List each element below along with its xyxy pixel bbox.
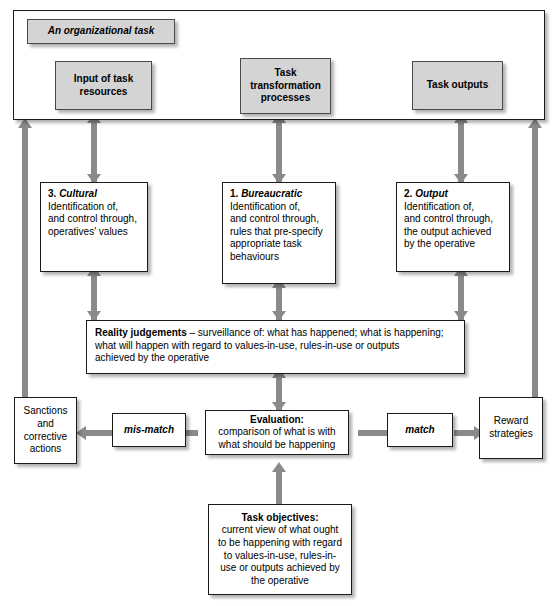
sanctions-line-4: actions	[30, 443, 62, 456]
task-outputs-label: Task outputs	[427, 79, 488, 92]
evaluation-title: Evaluation:	[250, 414, 304, 427]
arrowhead-mismatch-to-sanctions	[76, 426, 86, 440]
task-objectives-line-3: to values-in-use, rules-in-	[224, 550, 336, 563]
reality-judgements-line-1: Reality judgements – surveillance of: wh…	[95, 327, 444, 340]
control-box-cultural-line-1: Identification of,	[48, 201, 118, 214]
control-box-bureaucratic-line-3: rules that pre-specify	[230, 226, 323, 239]
match-box: match	[387, 413, 453, 447]
sanctions-line-3: corrective	[24, 431, 67, 444]
connector-objectives-to-evaluation	[276, 468, 282, 504]
control-box-output-line-4: by the operative	[404, 238, 475, 251]
control-box-output: 2. Output Identification of, and control…	[396, 182, 510, 272]
control-box-output-number: 2.	[404, 188, 412, 199]
input-of-task-resources-label: Input of task resources	[56, 73, 151, 98]
organizational-task-label: An organizational task	[27, 19, 175, 44]
control-box-bureaucratic-line-2: and control through,	[230, 213, 319, 226]
reward-strategies-box: Reward strategies	[479, 397, 543, 459]
control-box-cultural-number: 3.	[48, 188, 56, 199]
control-box-cultural-heading: 3. Cultural	[48, 188, 97, 201]
reality-judgements-title: Reality judgements	[95, 327, 187, 338]
diagram-canvas: An organizational task Input of task res…	[0, 0, 558, 606]
control-box-cultural: 3. Cultural Identification of, and contr…	[40, 182, 148, 272]
reality-judgements-box: Reality judgements – surveillance of: wh…	[86, 320, 465, 374]
control-box-output-line-1: Identification of,	[404, 201, 474, 214]
control-box-output-line-2: and control through,	[404, 213, 493, 226]
task-objectives-line-1: current view of what ought	[222, 524, 339, 537]
control-box-output-line-3: the output achieved	[404, 226, 491, 239]
sanctions-line-1: Sanctions	[24, 405, 68, 418]
connector-reward-to-frame	[532, 126, 538, 404]
control-box-cultural-line-3: operatives' values	[48, 226, 128, 239]
match-label: match	[405, 424, 434, 437]
connector-evaluation-to-match	[358, 430, 390, 436]
evaluation-line-2: what should be happening	[219, 439, 336, 452]
control-box-output-heading: 2. Output	[404, 188, 448, 201]
control-box-bureaucratic: 1. Bureaucratic Identification of, and c…	[222, 182, 336, 284]
arrowhead-objectives-to-evaluation	[272, 462, 286, 472]
control-box-cultural-kind: Cultural	[59, 188, 97, 199]
control-box-output-kind: Output	[415, 188, 448, 199]
task-objectives-title: Task objectives:	[241, 512, 318, 525]
task-transformation-processes-label: Task transformation processes	[241, 67, 330, 105]
control-box-bureaucratic-number: 1.	[230, 188, 238, 199]
connector-mismatch-to-sanctions	[84, 430, 114, 436]
task-outputs-box: Task outputs	[412, 61, 503, 110]
task-transformation-processes-box: Task transformation processes	[240, 58, 331, 114]
input-of-task-resources-box: Input of task resources	[55, 61, 152, 110]
control-box-cultural-line-2: and control through,	[48, 213, 137, 226]
control-box-bureaucratic-line-1: Identification of,	[230, 201, 300, 214]
control-box-bureaucratic-line-4: appropriate task	[230, 238, 302, 251]
evaluation-line-1: comparison of what is with	[218, 426, 335, 439]
task-objectives-line-5: the operative	[251, 575, 309, 588]
task-objectives-line-4: use or outputs achieved by	[220, 562, 340, 575]
connector-sanctions-to-frame	[22, 126, 28, 404]
task-objectives-box: Task objectives: current view of what ou…	[208, 504, 352, 595]
sanctions-line-2: and	[37, 418, 54, 431]
evaluation-box: Evaluation: comparison of what is with w…	[205, 410, 349, 455]
task-objectives-line-2: to be happening with regard	[218, 537, 342, 550]
reality-judgements-title-rest: – surveillance of: what has happened; wh…	[187, 327, 444, 338]
mis-match-label: mis-match	[124, 424, 174, 437]
reward-line-1: Reward	[494, 415, 528, 428]
control-box-bureaucratic-kind: Bureaucratic	[241, 188, 302, 199]
control-box-bureaucratic-heading: 1. Bureaucratic	[230, 188, 302, 201]
reality-judgements-line-2: what will happen with regard to values-i…	[95, 340, 400, 353]
reality-judgements-line-3: achieved by the operative	[95, 352, 209, 365]
reward-line-2: strategies	[489, 428, 532, 441]
control-box-bureaucratic-line-5: behaviours	[230, 251, 279, 264]
mis-match-box: mis-match	[112, 413, 186, 447]
organizational-task-label-text: An organizational task	[48, 25, 155, 38]
sanctions-box: Sanctions and corrective actions	[14, 397, 77, 464]
